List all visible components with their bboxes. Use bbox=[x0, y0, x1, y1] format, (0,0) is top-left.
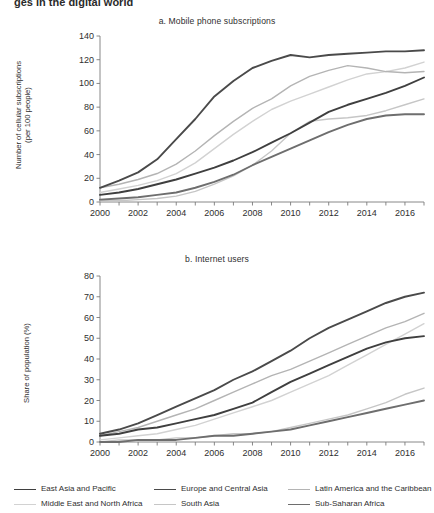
panel-a-title: a. Mobile phone subscriptions bbox=[0, 16, 434, 26]
y-axis-label-line-0: Share of population (%) bbox=[22, 278, 31, 448]
x-tick-label: 2004 bbox=[166, 208, 186, 218]
y-tick-label: 0 bbox=[89, 197, 94, 207]
legend-row-2: Middle East and North Africa South Asia … bbox=[0, 497, 434, 511]
x-tick-label: 2002 bbox=[128, 208, 148, 218]
panel-b-plot-area: 0102030405060708020002002200420062008201… bbox=[60, 270, 430, 465]
y-tick-label: 10 bbox=[84, 416, 94, 426]
legend-item-sub-saharan-africa: Sub-Saharan Africa bbox=[288, 497, 384, 511]
legend-label-latin-america-and-the-caribbean: Latin America and the Caribbean bbox=[315, 484, 432, 494]
legend-label-sub-saharan-africa: Sub-Saharan Africa bbox=[315, 499, 384, 509]
x-tick-label: 2006 bbox=[204, 208, 224, 218]
legend-item-east-asia-and-pacific: East Asia and Pacific bbox=[14, 482, 116, 496]
y-tick-label: 20 bbox=[84, 173, 94, 183]
y-tick-label: 140 bbox=[79, 31, 94, 41]
y-tick-label: 120 bbox=[79, 55, 94, 65]
panel-b-title: b. Internet users bbox=[0, 254, 434, 264]
x-tick-label: 2014 bbox=[357, 208, 377, 218]
series-line-middle-east-and-north-africa bbox=[100, 324, 424, 440]
series-line-latin-america-and-the-caribbean bbox=[100, 66, 424, 188]
legend-item-latin-america-and-the-caribbean: Latin America and the Caribbean bbox=[288, 482, 432, 496]
x-tick-label: 2004 bbox=[166, 448, 186, 458]
legend-label-east-asia-and-pacific: East Asia and Pacific bbox=[41, 484, 116, 494]
panel-b-svg: 0102030405060708020002002200420062008201… bbox=[60, 270, 430, 465]
x-tick-label: 2000 bbox=[90, 208, 110, 218]
legend-row-1: East Asia and Pacific Europe and Central… bbox=[0, 482, 434, 496]
figure-root: ges in the digital world a. Mobile phone… bbox=[0, 0, 434, 513]
legend-item-europe-and-central-asia: Europe and Central Asia bbox=[154, 482, 268, 496]
x-tick-label: 2014 bbox=[357, 448, 377, 458]
x-tick-label: 2016 bbox=[395, 208, 415, 218]
series-line-east-asia-and-pacific bbox=[100, 336, 424, 436]
y-tick-label: 60 bbox=[84, 126, 94, 136]
legend-swatch-sub-saharan-africa bbox=[288, 504, 310, 505]
legend-swatch-south-asia bbox=[154, 504, 176, 505]
x-tick-label: 2016 bbox=[395, 448, 415, 458]
panel-a-svg: 0204060801001201402000200220042006200820… bbox=[60, 30, 430, 225]
y-tick-label: 100 bbox=[79, 78, 94, 88]
y-tick-label: 80 bbox=[84, 271, 94, 281]
x-tick-label: 2002 bbox=[128, 448, 148, 458]
y-tick-label: 80 bbox=[84, 102, 94, 112]
series-line-europe-and-central-asia bbox=[100, 50, 424, 188]
y-tick-label: 70 bbox=[84, 292, 94, 302]
y-tick-label: 40 bbox=[84, 150, 94, 160]
x-tick-label: 2012 bbox=[319, 448, 339, 458]
x-tick-label: 2008 bbox=[242, 448, 262, 458]
legend-swatch-middle-east-and-north-africa bbox=[14, 504, 36, 505]
panel-mobile-phone-subscriptions: a. Mobile phone subscriptions Number of … bbox=[0, 0, 434, 250]
series-line-europe-and-central-asia bbox=[100, 293, 424, 434]
legend-swatch-latin-america-and-the-caribbean bbox=[288, 489, 310, 490]
panel-a-plot-area: 0204060801001201402000200220042006200820… bbox=[60, 30, 430, 225]
chart-legend: East Asia and Pacific Europe and Central… bbox=[0, 482, 434, 513]
legend-label-middle-east-and-north-africa: Middle East and North Africa bbox=[41, 499, 142, 509]
legend-label-south-asia: South Asia bbox=[181, 499, 219, 509]
legend-swatch-east-asia-and-pacific bbox=[14, 489, 36, 490]
series-line-east-asia-and-pacific bbox=[100, 78, 424, 195]
x-tick-label: 2012 bbox=[319, 208, 339, 218]
series-line-middle-east-and-north-africa bbox=[100, 62, 424, 192]
x-tick-label: 2008 bbox=[242, 208, 262, 218]
x-tick-label: 2010 bbox=[281, 208, 301, 218]
x-tick-label: 2000 bbox=[90, 448, 110, 458]
y-tick-label: 20 bbox=[84, 396, 94, 406]
y-tick-label: 30 bbox=[84, 375, 94, 385]
series-line-latin-america-and-the-caribbean bbox=[100, 313, 424, 435]
x-tick-label: 2006 bbox=[204, 448, 224, 458]
y-axis-label-line-1: (per 100 people) bbox=[23, 30, 32, 200]
y-tick-label: 50 bbox=[84, 333, 94, 343]
y-tick-label: 0 bbox=[89, 437, 94, 447]
panel-a-y-axis-label: Number of cellular subscriptions(per 100… bbox=[14, 30, 32, 200]
legend-item-middle-east-and-north-africa: Middle East and North Africa bbox=[14, 497, 142, 511]
series-line-south-asia bbox=[100, 388, 424, 442]
panel-b-y-axis-label: Share of population (%) bbox=[22, 278, 31, 448]
x-tick-label: 2010 bbox=[281, 448, 301, 458]
legend-swatch-europe-and-central-asia bbox=[154, 489, 176, 490]
y-tick-label: 60 bbox=[84, 313, 94, 323]
legend-label-europe-and-central-asia: Europe and Central Asia bbox=[181, 484, 268, 494]
y-tick-label: 40 bbox=[84, 354, 94, 364]
panel-internet-users: b. Internet users Share of population (%… bbox=[0, 248, 434, 480]
legend-item-south-asia: South Asia bbox=[154, 497, 219, 511]
y-axis-label-line-0: Number of cellular subscriptions bbox=[14, 30, 23, 200]
